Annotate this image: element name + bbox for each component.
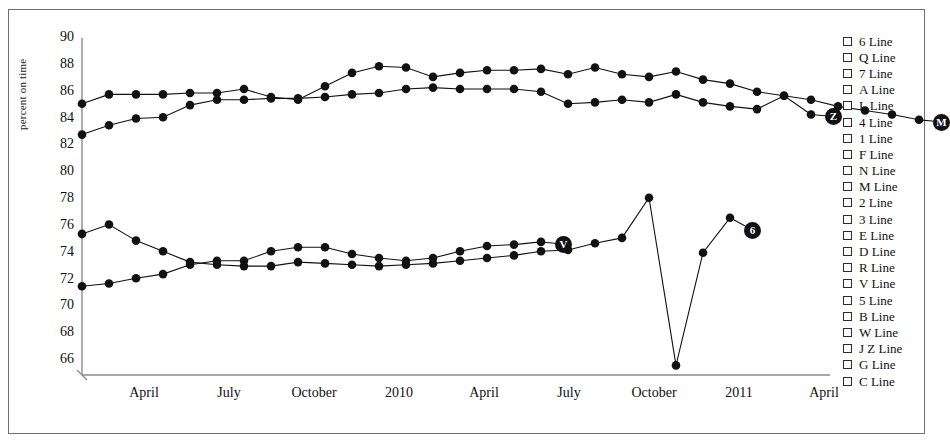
series-end-label-6: 6 xyxy=(744,222,761,239)
legend-checkbox-icon[interactable] xyxy=(843,37,852,46)
legend-checkbox-icon[interactable] xyxy=(843,69,852,78)
data-point-marker xyxy=(105,121,114,130)
data-point-marker xyxy=(186,260,195,269)
legend-item[interactable]: 2 Line xyxy=(843,195,923,211)
legend-checkbox-icon[interactable] xyxy=(843,182,852,191)
legend-item-label: 3 Line xyxy=(859,213,893,226)
data-point-marker xyxy=(375,89,384,98)
legend-item[interactable]: V Line xyxy=(843,276,923,292)
data-point-marker xyxy=(564,99,573,108)
data-point-marker xyxy=(672,361,681,370)
data-point-marker xyxy=(510,240,519,249)
data-point-marker xyxy=(186,89,195,98)
legend-item[interactable]: 1 Line xyxy=(843,130,923,146)
data-point-marker xyxy=(132,274,141,283)
legend-item[interactable]: F Line xyxy=(843,146,923,162)
legend-item[interactable]: C Line xyxy=(843,373,923,389)
data-point-marker xyxy=(78,99,87,108)
legend-item-label: V Line xyxy=(859,277,895,290)
data-point-marker xyxy=(456,69,465,78)
data-point-marker xyxy=(780,91,789,100)
legend-item[interactable]: R Line xyxy=(843,260,923,276)
legend-checkbox-icon[interactable] xyxy=(843,263,852,272)
legend-item-label: A Line xyxy=(859,83,895,96)
series-line xyxy=(82,88,919,135)
data-point-marker xyxy=(510,85,519,94)
data-point-marker xyxy=(456,247,465,256)
data-point-marker xyxy=(240,95,249,104)
data-point-marker xyxy=(429,73,438,82)
legend-checkbox-icon[interactable] xyxy=(843,312,852,321)
legend-checkbox-icon[interactable] xyxy=(843,377,852,386)
data-point-marker xyxy=(483,242,492,251)
legend-checkbox-icon[interactable] xyxy=(843,296,852,305)
data-point-marker xyxy=(537,65,546,74)
series-Z xyxy=(78,62,816,119)
legend-item[interactable]: W Line xyxy=(843,324,923,340)
data-point-marker xyxy=(267,247,276,256)
legend-item[interactable]: 5 Line xyxy=(843,292,923,308)
series-6 xyxy=(78,193,735,369)
legend-checkbox-icon[interactable] xyxy=(843,215,852,224)
legend-checkbox-icon[interactable] xyxy=(843,344,852,353)
data-point-marker xyxy=(159,90,168,99)
data-point-marker xyxy=(78,282,87,291)
legend[interactable]: 6 LineQ Line7 LineA LineL Line4 Line1 Li… xyxy=(843,33,923,389)
data-point-marker xyxy=(105,279,114,288)
legend-item[interactable]: 3 Line xyxy=(843,211,923,227)
data-point-marker xyxy=(78,130,87,139)
legend-item[interactable]: N Line xyxy=(843,163,923,179)
legend-item[interactable]: A Line xyxy=(843,82,923,98)
legend-item[interactable]: D Line xyxy=(843,243,923,259)
legend-checkbox-icon[interactable] xyxy=(843,279,852,288)
legend-checkbox-icon[interactable] xyxy=(843,247,852,256)
data-point-marker xyxy=(348,69,357,78)
legend-checkbox-icon[interactable] xyxy=(843,85,852,94)
data-point-marker xyxy=(483,254,492,263)
data-point-marker xyxy=(672,90,681,99)
legend-item[interactable]: L Line xyxy=(843,98,923,114)
legend-checkbox-icon[interactable] xyxy=(843,231,852,240)
legend-checkbox-icon[interactable] xyxy=(843,198,852,207)
data-point-marker xyxy=(105,220,114,229)
data-point-marker xyxy=(429,83,438,92)
legend-item[interactable]: Q Line xyxy=(843,49,923,65)
legend-item[interactable]: 4 Line xyxy=(843,114,923,130)
legend-item[interactable]: 7 Line xyxy=(843,65,923,81)
data-point-marker xyxy=(132,90,141,99)
data-point-marker xyxy=(240,256,249,265)
data-point-marker xyxy=(537,87,546,96)
legend-checkbox-icon[interactable] xyxy=(843,360,852,369)
legend-checkbox-icon[interactable] xyxy=(843,150,852,159)
legend-item[interactable]: J Z Line xyxy=(843,341,923,357)
legend-item-label: 7 Line xyxy=(859,67,893,80)
legend-item-label: L Line xyxy=(859,99,894,112)
legend-checkbox-icon[interactable] xyxy=(843,328,852,337)
data-point-marker xyxy=(618,234,627,243)
legend-checkbox-icon[interactable] xyxy=(843,166,852,175)
data-point-marker xyxy=(375,62,384,71)
data-point-marker xyxy=(591,239,600,248)
legend-item[interactable]: B Line xyxy=(843,308,923,324)
legend-checkbox-icon[interactable] xyxy=(843,101,852,110)
legend-item[interactable]: M Line xyxy=(843,179,923,195)
legend-checkbox-icon[interactable] xyxy=(843,53,852,62)
data-point-marker xyxy=(375,254,384,263)
data-point-marker xyxy=(159,113,168,122)
data-point-marker xyxy=(105,90,114,99)
legend-item-label: 2 Line xyxy=(859,196,893,209)
data-point-marker xyxy=(240,85,249,94)
data-point-marker xyxy=(564,70,573,79)
series-end-label-M: M xyxy=(933,114,950,131)
legend-checkbox-icon[interactable] xyxy=(843,134,852,143)
legend-item[interactable]: G Line xyxy=(843,357,923,373)
legend-item[interactable]: E Line xyxy=(843,227,923,243)
legend-checkbox-icon[interactable] xyxy=(843,118,852,127)
data-point-marker xyxy=(321,82,330,91)
data-point-marker xyxy=(510,66,519,75)
legend-item-label: D Line xyxy=(859,245,895,258)
legend-item[interactable]: 6 Line xyxy=(843,33,923,49)
data-point-marker xyxy=(645,73,654,82)
